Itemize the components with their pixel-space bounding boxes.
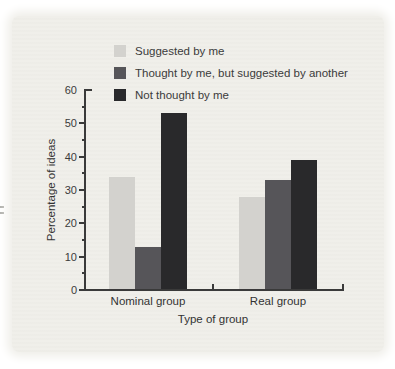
legend-swatch-thought-by-me [114,67,126,79]
y-major-tick [79,189,85,191]
bar [135,247,161,290]
y-tick-label: 30 [55,185,77,196]
y-minor-tick [82,139,85,141]
y-tick-label: 40 [55,152,77,163]
x-category-label: Real group [218,295,338,307]
legend-row: Not thought by me [114,89,348,101]
y-major-tick [79,122,85,124]
y-major-tick [79,156,85,158]
bar [109,177,135,290]
bar [265,180,291,290]
y-tick-label: 10 [55,252,77,263]
legend-label: Suggested by me [135,45,225,57]
legend-row: Thought by me, but suggested by another [114,67,348,79]
y-minor-tick [82,206,85,208]
y-tick-label: 50 [55,118,77,129]
y-tick-label: 60 [55,85,77,96]
y-tick-label: 0 [55,285,77,296]
bar [161,113,187,290]
y-tick-label: 20 [55,218,77,229]
x-boundary-tick [342,284,344,290]
y-minor-tick [82,239,85,241]
y-minor-tick [82,172,85,174]
x-axis-line [84,289,344,291]
x-axis-title: Type of group [143,313,283,325]
bar [291,160,317,290]
y-major-tick [79,256,85,258]
legend-label: Not thought by me [135,89,229,101]
legend-row: Suggested by me [114,45,348,57]
y-minor-tick [82,272,85,274]
y-major-tick [79,222,85,224]
y-minor-tick [82,106,85,108]
bar-chart: Suggested by me Thought by me, but sugge… [0,0,395,369]
y-major-tick [86,89,92,91]
scanned-figure-page: Suggested by me Thought by me, but sugge… [0,0,395,369]
legend-label: Thought by me, but suggested by another [135,67,348,79]
legend-swatch-not-thought-by-me [114,89,126,101]
legend-swatch-suggested-by-me [114,45,126,57]
x-category-label: Nominal group [88,295,208,307]
chart-legend: Suggested by me Thought by me, but sugge… [114,45,348,111]
y-major-tick [79,289,85,291]
bar [239,197,265,290]
x-boundary-tick [212,284,214,290]
